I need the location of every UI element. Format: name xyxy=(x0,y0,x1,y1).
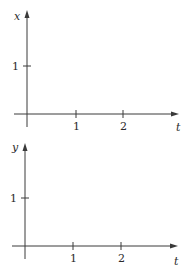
bottom-xlabel: t xyxy=(174,255,179,268)
bottom-xtick-1-label: 1 xyxy=(70,252,77,265)
diagram-canvas: x 1 1 2 t y 1 1 2 t xyxy=(0,0,189,270)
bottom-x-axis-arrow-icon xyxy=(170,244,178,249)
bottom-xtick-2-label: 2 xyxy=(118,252,125,265)
top-plot: x 1 1 2 t xyxy=(12,10,181,134)
bottom-ytick-1-label: 1 xyxy=(10,192,17,205)
top-xtick-1-label: 1 xyxy=(73,120,80,133)
bottom-ylabel: y xyxy=(11,141,19,154)
top-ylabel: x xyxy=(14,10,21,23)
top-xtick-2-label: 2 xyxy=(120,120,127,133)
bottom-plot: y 1 1 2 t xyxy=(10,141,179,268)
top-xlabel: t xyxy=(176,121,181,134)
top-ytick-1-label: 1 xyxy=(12,60,19,73)
top-y-axis-arrow-icon xyxy=(25,10,30,18)
top-x-axis-arrow-icon xyxy=(171,112,179,117)
bottom-y-axis-arrow-icon xyxy=(23,143,28,151)
